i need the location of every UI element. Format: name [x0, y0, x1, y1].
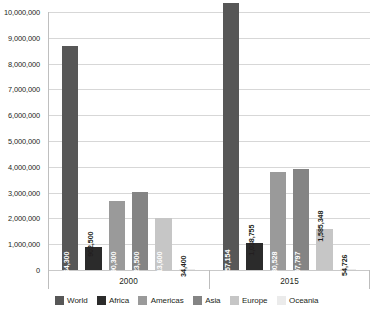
- y-axis-tick-label: 8,000,000: [8, 59, 40, 68]
- legend-swatch-icon: [55, 296, 64, 305]
- legend-label: World: [67, 296, 88, 305]
- bar-value-label: 1,038,755: [247, 225, 254, 256]
- bar-group: 8,664,300902,5002,690,3003,023,5002,013,…: [48, 12, 209, 270]
- bar-slot: 1,585,348: [316, 12, 332, 270]
- bar-chart: 01,000,0002,000,0003,000,0004,000,0005,0…: [0, 0, 373, 322]
- bar-slot: 54,726: [340, 12, 356, 270]
- legend-swatch-icon: [138, 296, 147, 305]
- y-axis-tick-label: 3,000,000: [8, 188, 40, 197]
- bar-slot: 8,664,300: [62, 12, 78, 270]
- plot-area: 8,664,300902,5002,690,3003,023,5002,013,…: [48, 12, 370, 270]
- legend-item[interactable]: Africa: [97, 296, 130, 305]
- legend-swatch-icon: [277, 296, 286, 305]
- y-axis-tick-label: 6,000,000: [8, 111, 40, 120]
- bar[interactable]: 2,013,600: [155, 218, 171, 270]
- legend-item[interactable]: World: [55, 296, 88, 305]
- bar[interactable]: 1,585,348: [316, 229, 332, 270]
- legend-label: Europe: [242, 296, 268, 305]
- legend-label: Asia: [205, 296, 220, 305]
- x-axis-category-label: 2000: [48, 270, 209, 290]
- y-axis-tick-label: 10,000,000: [4, 8, 40, 17]
- bar-slot: 10,357,154: [223, 12, 239, 270]
- bar-value-label: 1,585,348: [317, 211, 324, 242]
- x-axis-tick: [48, 270, 49, 289]
- y-axis-tick-label: 4,000,000: [8, 162, 40, 171]
- x-axis-tick: [209, 270, 210, 289]
- bar-slot: 2,013,600: [155, 12, 171, 270]
- bar-group: 10,357,1541,038,7553,780,5283,897,7971,5…: [209, 12, 370, 270]
- x-axis-tick: [369, 270, 370, 289]
- legend-item[interactable]: Americas: [138, 296, 183, 305]
- legend-label: Africa: [109, 296, 129, 305]
- y-axis-tick-label: 1,000,000: [8, 240, 40, 249]
- legend-item[interactable]: Oceania: [277, 296, 319, 305]
- legend-label: Americas: [151, 296, 184, 305]
- bar[interactable]: 3,023,500: [132, 192, 148, 270]
- legend-swatch-icon: [97, 296, 106, 305]
- bar-value-label: 902,500: [86, 231, 93, 256]
- chart-legend: WorldAfricaAmericasAsiaEuropeOceania: [0, 296, 373, 305]
- bar-groups: 8,664,300902,5002,690,3003,023,5002,013,…: [48, 12, 370, 270]
- bar[interactable]: 3,780,528: [270, 172, 286, 270]
- bar-slot: 3,897,797: [293, 12, 309, 270]
- x-axis-category-label: 2015: [209, 270, 370, 290]
- y-axis-tick-label: 0: [36, 266, 40, 275]
- y-axis-tick-label: 9,000,000: [8, 33, 40, 42]
- legend-swatch-icon: [193, 296, 202, 305]
- bar[interactable]: 902,500: [85, 247, 101, 270]
- bar[interactable]: 2,690,300: [109, 201, 125, 270]
- bar[interactable]: 10,357,154: [223, 3, 239, 270]
- y-axis-tick-labels: 01,000,0002,000,0003,000,0004,000,0005,0…: [0, 12, 44, 270]
- legend-swatch-icon: [230, 296, 239, 305]
- legend-label: Oceania: [289, 296, 318, 305]
- bar-slot: 3,023,500: [132, 12, 148, 270]
- bar-group-bars: 10,357,1541,038,7553,780,5283,897,7971,5…: [209, 12, 370, 270]
- y-axis-tick-label: 5,000,000: [8, 137, 40, 146]
- y-axis-tick-label: 2,000,000: [8, 214, 40, 223]
- bar[interactable]: 1,038,755: [246, 243, 262, 270]
- y-axis-tick-label: 7,000,000: [8, 85, 40, 94]
- x-axis: 20002015: [48, 270, 370, 290]
- clipped-top-text: [0, 0, 373, 6]
- legend-item[interactable]: Asia: [193, 296, 221, 305]
- bar-slot: 34,400: [179, 12, 195, 270]
- bar-slot: 2,690,300: [109, 12, 125, 270]
- bar-group-bars: 8,664,300902,5002,690,3003,023,5002,013,…: [48, 12, 209, 270]
- bar-slot: 1,038,755: [246, 12, 262, 270]
- bar-slot: 902,500: [85, 12, 101, 270]
- bar-slot: 3,780,528: [270, 12, 286, 270]
- bar[interactable]: 3,897,797: [293, 169, 309, 270]
- bar[interactable]: 8,664,300: [62, 46, 78, 270]
- legend-item[interactable]: Europe: [230, 296, 268, 305]
